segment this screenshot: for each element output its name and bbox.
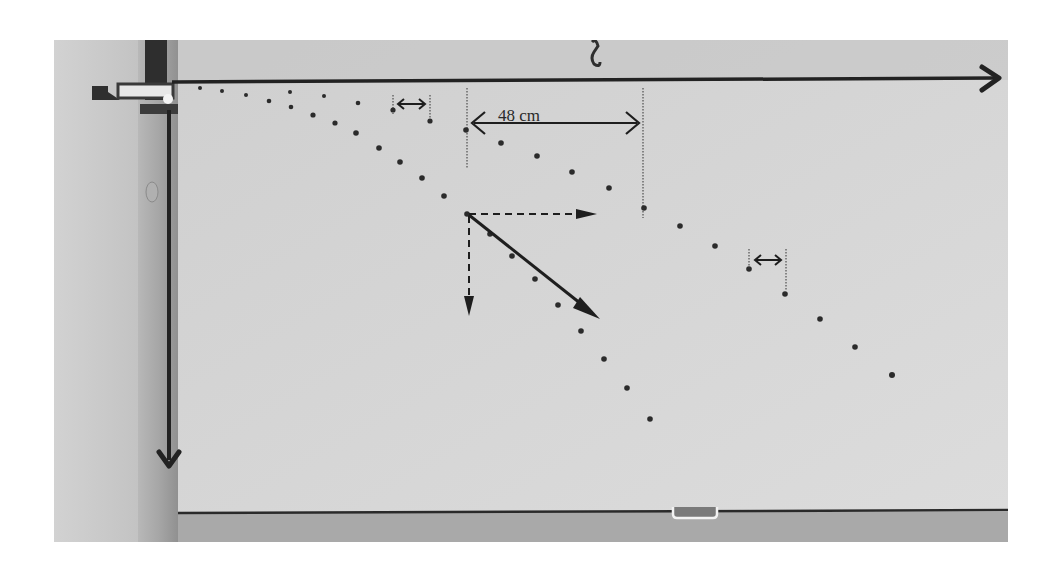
- frame-knob: [146, 182, 158, 202]
- wall: [54, 40, 144, 542]
- launcher-ball: [163, 94, 173, 104]
- experiment-photo: 48 cm: [54, 40, 1008, 542]
- distance-label: 48 cm: [498, 106, 540, 126]
- handle: [673, 507, 717, 518]
- board-tray: [178, 512, 1008, 542]
- frame-post: [138, 40, 180, 542]
- board: [178, 40, 1008, 512]
- clamp: [140, 104, 178, 114]
